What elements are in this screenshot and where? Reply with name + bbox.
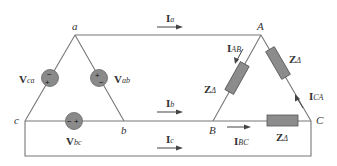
label-ICA: ICA <box>309 90 324 102</box>
label-Z-BC: ZΔ <box>276 131 288 143</box>
arrow-ICA <box>295 94 303 108</box>
label-vab: Vab <box>114 73 130 85</box>
label-vca: Vca <box>19 73 35 85</box>
impedance-BC <box>267 115 298 126</box>
node-A-label: A <box>256 20 264 32</box>
circuit-diagram: − + + − − + <box>0 0 337 166</box>
arrow-Ia <box>157 25 183 30</box>
node-C-label: C <box>316 114 324 126</box>
arrow-IBC <box>227 125 251 130</box>
node-B-label: B <box>209 124 216 136</box>
arrow-Ib <box>157 110 183 115</box>
label-vbc: Vbc <box>66 135 82 147</box>
source-vab: + − <box>91 70 108 88</box>
impedance-CA <box>266 47 291 80</box>
label-IBC: IBC <box>234 135 249 147</box>
label-Ic: Ic <box>166 133 174 145</box>
svg-text:+: + <box>45 78 50 87</box>
svg-text:+: + <box>74 117 79 126</box>
label-Ib: Ib <box>166 97 174 109</box>
wire-A-C <box>261 35 311 121</box>
label-Z-AB: ZΔ <box>204 83 216 95</box>
arrow-Ic <box>157 146 183 151</box>
source-vca: − + <box>42 70 59 88</box>
node-c-label: c <box>14 114 19 126</box>
label-Z-CA: ZΔ <box>289 53 301 65</box>
svg-text:−: − <box>67 117 72 126</box>
node-a-label: a <box>72 20 78 32</box>
label-Ia: Ia <box>166 12 174 24</box>
node-b-label: b <box>121 124 127 136</box>
label-IAB: IAB <box>227 42 241 54</box>
impedance-AB <box>225 62 249 95</box>
svg-text:−: − <box>99 78 104 87</box>
source-vbc: − + <box>66 113 83 130</box>
